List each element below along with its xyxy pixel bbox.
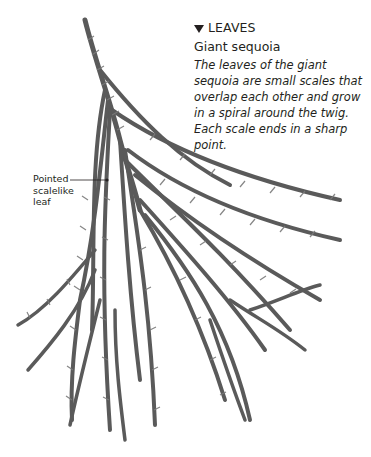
annotation-label: Pointed scalelike leaf	[33, 173, 93, 208]
caption-block: LEAVES Giant sequoia The leaves of the g…	[194, 20, 370, 153]
caption-description: The leaves of the giant sequoia are smal…	[194, 57, 370, 153]
annotation-label-line: leaf	[33, 196, 93, 208]
triangle-down-icon	[194, 25, 204, 33]
species-name: Giant sequoia	[194, 38, 370, 56]
section-heading: LEAVES	[194, 20, 370, 36]
annotation-pointer-dot	[105, 178, 108, 181]
section-heading-text: LEAVES	[208, 20, 256, 36]
annotation-label-line: scalelike	[33, 185, 93, 197]
annotation-label-line: Pointed	[33, 173, 93, 185]
